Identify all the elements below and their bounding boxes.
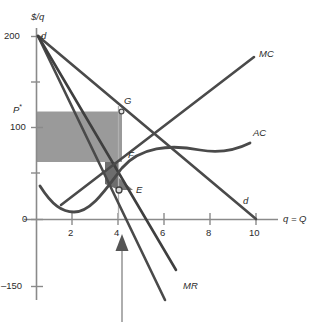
y-tick-label-200: 200 <box>4 31 20 41</box>
x-tick-label-2: 2 <box>68 228 73 238</box>
x-tick-label-6: 6 <box>160 228 165 238</box>
x-tick-label-8: 8 <box>206 228 211 238</box>
marginal-revenue-label: MR <box>183 281 198 291</box>
y-tick-label-minus150: –150 <box>1 281 22 291</box>
x-tick-label-10: 10 <box>249 228 260 238</box>
y-tick-label-0: 0 <box>22 214 27 224</box>
marginal-cost-label: MC <box>259 49 274 59</box>
point-e-marker <box>116 187 122 193</box>
average-cost-label: AC <box>253 128 266 138</box>
y-axis-label: $/q <box>31 12 44 22</box>
x-axis-label: q = Q <box>283 214 307 224</box>
firm-demand-label: d <box>41 31 46 41</box>
market-demand-label: d <box>243 196 248 206</box>
point-g-marker <box>119 109 124 114</box>
point-f-label: F <box>128 150 134 160</box>
point-g-label: G <box>124 96 131 106</box>
price-level-star: * <box>19 103 22 110</box>
x-tick-label-4: 4 <box>114 228 119 238</box>
y-tick-label-100: 100 <box>10 122 26 132</box>
point-e-label: E <box>136 185 142 195</box>
price-level-label: P* <box>13 103 22 115</box>
firm-demand-curve <box>38 36 165 300</box>
